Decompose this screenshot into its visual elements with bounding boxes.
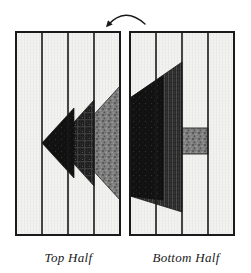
panel-bottom-half[interactable] [130, 32, 234, 235]
accent-speckle-block [182, 128, 208, 154]
wedge-dark-shape [130, 76, 163, 200]
quilt-diagram-svg [0, 0, 251, 273]
rotation-arrow [108, 15, 145, 25]
diagram-canvas: Top Half Bottom Half [0, 0, 251, 273]
panel-top-half[interactable] [16, 32, 120, 235]
top-strip-1 [16, 32, 42, 235]
bottom-strip-4 [208, 32, 234, 235]
bottom-half-label: Bottom Half [130, 250, 242, 266]
top-half-label: Top Half [16, 250, 121, 266]
